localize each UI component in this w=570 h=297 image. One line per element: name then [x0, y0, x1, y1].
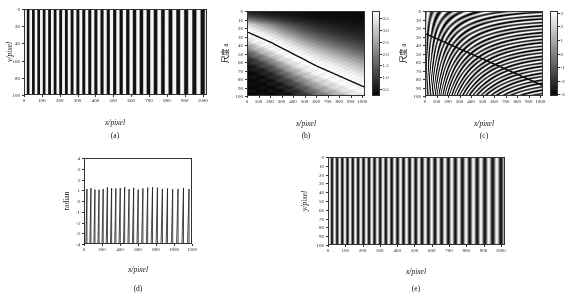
y-tick-mark [423, 96, 425, 97]
y-tick-label: 20 [238, 26, 243, 31]
colorbar-tick-mark [558, 81, 560, 82]
y-tick-label: 40 [319, 190, 324, 195]
x-tick-mark [305, 96, 306, 98]
panel-e: 0100200300400500600700800900100001020304… [290, 148, 570, 297]
x-tick-mark [494, 96, 495, 98]
panel-a: 0100200300400500600700800900100002040608… [0, 0, 215, 140]
colorbar-tick-mark [558, 13, 560, 14]
colorbar-tick-label: 0.5 [383, 86, 389, 91]
x-tick-label: 600 [134, 247, 142, 252]
panel-c-ylabel: 尺度 a [397, 43, 408, 62]
y-tick-mark [245, 96, 247, 97]
panel-b: 0100200300400500600700800900100001020304… [215, 0, 393, 140]
colorbar-tick-label: 1 [561, 37, 564, 42]
y-tick-label: 30 [319, 181, 324, 186]
x-tick-mark [363, 245, 364, 247]
panel-d: 020040060080010001200-4-3-2-101234 x/pix… [0, 148, 290, 297]
x-tick-label: 800 [152, 247, 160, 252]
x-tick-label: 900 [347, 99, 355, 104]
y-tick-label: 100 [317, 243, 325, 248]
y-tick-label: 80 [15, 75, 20, 80]
colorbar-tick-mark [558, 26, 560, 27]
panel-b-plot-area [247, 11, 365, 96]
panel-a-ylabel: y/pixel [5, 42, 14, 62]
x-tick-mark [466, 245, 467, 247]
x-tick-mark [60, 95, 61, 97]
panel-b-ylabel: 尺度 a [219, 43, 230, 62]
panel-c-xlabel: x/pixel [474, 119, 494, 128]
x-tick-mark [167, 95, 168, 97]
x-tick-mark [362, 96, 363, 98]
x-tick-mark [460, 96, 461, 98]
x-tick-mark [351, 96, 352, 98]
x-tick-mark [449, 245, 450, 247]
y-tick-label: -1 [76, 209, 80, 214]
x-tick-label: 200 [266, 99, 274, 104]
y-tick-label: 60 [416, 60, 421, 65]
x-tick-mark [78, 95, 79, 97]
colorbar-tick-mark [558, 54, 560, 55]
panel-c-colorbar-gradient [551, 12, 557, 95]
colorbar-tick-label: -2 [561, 78, 565, 83]
y-tick-label: 100 [13, 93, 21, 98]
x-tick-mark [113, 95, 114, 97]
colorbar-tick-mark [380, 89, 382, 90]
x-tick-mark [529, 96, 530, 98]
x-tick-label: 900 [525, 99, 533, 104]
x-tick-mark [131, 95, 132, 97]
panel-a-plot-area [24, 9, 207, 95]
x-tick-mark [293, 96, 294, 98]
x-tick-label: 800 [513, 99, 521, 104]
y-tick-label: 10 [238, 17, 243, 22]
x-tick-mark [138, 244, 139, 246]
panel-d-caption: (d) [134, 284, 143, 293]
colorbar-tick-label: -1 [561, 65, 565, 70]
x-tick-label: 400 [467, 99, 475, 104]
x-tick-mark [397, 245, 398, 247]
x-tick-mark [174, 244, 175, 246]
x-tick-mark [95, 95, 96, 97]
y-tick-label: 60 [319, 207, 324, 212]
y-tick-label: 0 [322, 155, 325, 160]
x-tick-label: 200 [444, 99, 452, 104]
colorbar-tick-mark [558, 94, 560, 95]
y-tick-mark [326, 245, 328, 246]
colorbar-tick-label: 3 [561, 10, 564, 15]
colorbar-tick-label: 1.0 [383, 75, 389, 80]
x-tick-label: 600 [490, 99, 498, 104]
x-tick-label: 500 [411, 248, 419, 253]
x-tick-label: 300 [456, 99, 464, 104]
x-tick-mark [448, 96, 449, 98]
panel-e-fringe-image [329, 158, 505, 245]
y-tick-label: 70 [238, 68, 243, 73]
x-tick-label: 800 [335, 99, 343, 104]
x-tick-mark [501, 245, 502, 247]
y-tick-label: 10 [416, 17, 421, 22]
x-tick-label: 100 [433, 99, 441, 104]
x-tick-label: 400 [92, 98, 100, 103]
y-tick-label: 3 [78, 166, 81, 171]
colorbar-tick-mark [380, 54, 382, 55]
x-tick-mark [84, 244, 85, 246]
x-tick-label: 600 [127, 98, 135, 103]
x-tick-mark [192, 244, 193, 246]
y-tick-label: 0 [18, 7, 21, 12]
panel-e-ylabel: y/pixel [300, 191, 309, 211]
y-tick-label: 2 [78, 177, 81, 182]
x-tick-label: 400 [116, 247, 124, 252]
x-tick-label: 1000 [496, 248, 506, 253]
y-tick-label: 50 [416, 51, 421, 56]
x-tick-label: 0 [246, 99, 249, 104]
y-tick-label: 30 [416, 34, 421, 39]
x-tick-mark [484, 245, 485, 247]
y-tick-label: 30 [238, 34, 243, 39]
x-tick-mark [316, 96, 317, 98]
x-tick-label: 100 [38, 98, 46, 103]
x-tick-label: 700 [502, 99, 510, 104]
colorbar-tick-mark [380, 42, 382, 43]
x-tick-mark [517, 96, 518, 98]
y-tick-label: 60 [238, 60, 243, 65]
colorbar-tick-mark [558, 67, 560, 68]
x-tick-label: 500 [110, 98, 118, 103]
x-tick-mark [270, 96, 271, 98]
